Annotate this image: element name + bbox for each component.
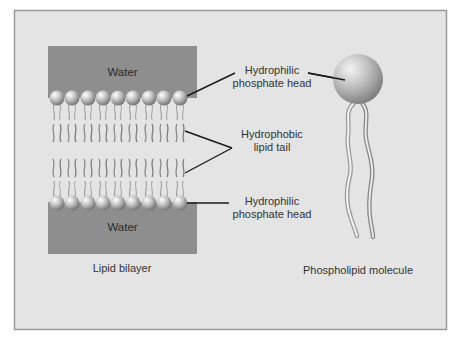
- tail-label-line2: lipid tail: [222, 141, 322, 154]
- bottom-head-label: Hydrophilic phosphate head: [222, 195, 322, 221]
- top-water-label: Water: [48, 66, 197, 79]
- top-head-label: Hydrophilic phosphate head: [222, 64, 322, 90]
- top-head-label-line2: phosphate head: [222, 77, 322, 90]
- bilayer-caption: Lipid bilayer: [72, 262, 172, 275]
- top-head-label-line1: Hydrophilic: [222, 64, 322, 77]
- tail-label: Hydrophobic lipid tail: [222, 128, 322, 154]
- diagram-svg: [0, 0, 461, 344]
- diagram-canvas: Water Water Hydrophilic phosphate head H…: [0, 0, 461, 344]
- bottom-water-label: Water: [48, 221, 197, 234]
- tail-label-line1: Hydrophobic: [222, 128, 322, 141]
- bottom-head-label-line2: phosphate head: [222, 208, 322, 221]
- top-phosphate-heads: [50, 91, 188, 106]
- bottom-phosphate-heads: [50, 196, 188, 211]
- molecule-caption: Phospholipid molecule: [298, 264, 418, 277]
- bottom-head-label-line1: Hydrophilic: [222, 195, 322, 208]
